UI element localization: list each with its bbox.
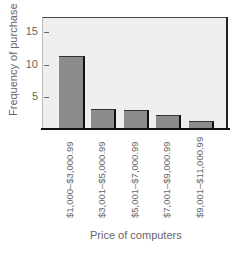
x-category-label: $5,001–$7,000.99 xyxy=(129,133,140,218)
bar-2 xyxy=(124,110,149,130)
x-category-label: $9,001–$11,000.99 xyxy=(194,133,205,218)
x-category-label: $3,001–$5,000.99 xyxy=(96,133,107,218)
bar-1 xyxy=(91,109,116,129)
x-category-label: $1,000–$3,000.99 xyxy=(64,133,75,218)
y-tick-label: 5 xyxy=(22,90,38,102)
y-tick-5 xyxy=(44,97,49,98)
y-tick-label: 15 xyxy=(22,25,38,37)
x-axis-line xyxy=(41,128,230,130)
bar-0 xyxy=(59,56,85,129)
x-axis-label: Price of computers xyxy=(90,229,182,241)
y-tick-label: 10 xyxy=(22,58,38,70)
y-tick-10 xyxy=(44,65,49,66)
bar-3 xyxy=(156,115,181,129)
plot-area xyxy=(42,17,228,129)
x-category-label: $7,001–$9,000.99 xyxy=(161,133,172,218)
y-tick-15 xyxy=(44,32,49,33)
y-axis-label: Frequency of purchase xyxy=(7,6,19,116)
